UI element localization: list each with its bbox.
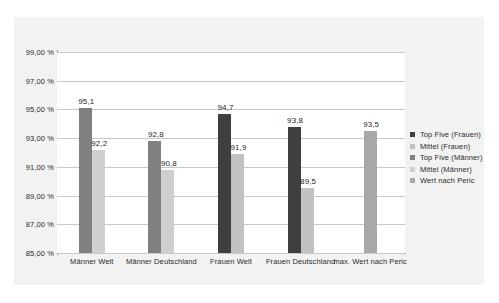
bar-value-label: 95,1	[78, 97, 94, 106]
legend-item[interactable]: Top Five (Frauen)	[410, 129, 499, 141]
chart-bar	[92, 150, 105, 253]
x-tick-label: Männer Deutschland	[126, 257, 197, 266]
legend-item[interactable]: Mittel (Frauen)	[410, 141, 499, 153]
y-tick-label: 97,00 %	[26, 76, 54, 85]
y-tick-label: 95,00 %	[26, 105, 54, 114]
plot-area: 95,192,292,890,894,791,993,889,593,5	[57, 52, 405, 253]
chart-bar	[364, 131, 377, 253]
gridline	[57, 52, 405, 53]
x-tick-label: Frauen Deutschland	[266, 257, 335, 266]
legend-swatch-icon	[410, 178, 415, 183]
chart-bar	[288, 127, 301, 253]
chart-frame: 99,00 %97,00 %95,00 %93,00 %91,00 %89,00…	[14, 17, 484, 285]
legend-item-label: Top Five (Männer)	[420, 153, 483, 162]
legend-swatch-icon	[410, 132, 415, 137]
legend-item[interactable]: Wert nach Peric	[410, 175, 499, 187]
legend-item-label: Mittel (Frauen)	[420, 142, 470, 151]
x-tick-label: max. Wert nach Peric	[333, 257, 407, 266]
y-tick-label: 93,00 %	[26, 134, 54, 143]
gridline	[57, 253, 405, 254]
x-tick-label: Frauen Welt	[210, 257, 252, 266]
bar-value-label: 89,5	[300, 177, 316, 186]
gridline	[57, 81, 405, 82]
legend-item-label: Mittel (Männer)	[420, 165, 472, 174]
chart-bar	[79, 108, 92, 253]
y-tick-label: 85,00 %	[26, 249, 54, 258]
chart-bar	[231, 154, 244, 253]
legend-swatch-icon	[410, 167, 415, 172]
bar-value-label: 91,9	[231, 143, 247, 152]
y-tick-label: 87,00 %	[26, 220, 54, 229]
legend-item-label: Wert nach Peric	[420, 176, 475, 185]
bar-value-label: 90,8	[161, 159, 177, 168]
legend-item[interactable]: Mittel (Männer)	[410, 164, 499, 176]
chart-bar	[301, 188, 314, 253]
chart-legend: Top Five (Frauen)Mittel (Frauen)Top Five…	[410, 129, 499, 187]
y-axis: 99,00 %97,00 %95,00 %93,00 %91,00 %89,00…	[14, 17, 54, 285]
y-tick-label: 89,00 %	[26, 191, 54, 200]
y-tick-label: 99,00 %	[26, 48, 54, 57]
legend-item[interactable]: Top Five (Männer)	[410, 152, 499, 164]
chart-bar	[148, 141, 161, 253]
legend-swatch-icon	[410, 155, 415, 160]
y-tick-label: 91,00 %	[26, 162, 54, 171]
bar-value-label: 92,2	[91, 139, 107, 148]
bar-value-label: 94,7	[218, 103, 234, 112]
gridline	[57, 138, 405, 139]
legend-item-label: Top Five (Frauen)	[420, 130, 481, 139]
legend-swatch-icon	[410, 144, 415, 149]
bar-value-label: 93,5	[363, 120, 379, 129]
chart-bar	[218, 114, 231, 253]
chart-bar	[161, 170, 174, 253]
bar-value-label: 93,8	[287, 116, 303, 125]
x-tick-label: Männer Welt	[70, 257, 113, 266]
bar-value-label: 92,8	[148, 130, 164, 139]
